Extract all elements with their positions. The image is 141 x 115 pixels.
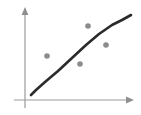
data-point bbox=[44, 53, 50, 59]
data-point bbox=[77, 61, 83, 67]
data-point bbox=[85, 23, 91, 29]
data-points-group bbox=[44, 23, 109, 67]
x-axis-arrow-icon bbox=[126, 97, 134, 104]
chart-canvas bbox=[0, 0, 141, 115]
scatter-plot-figure bbox=[0, 0, 141, 115]
y-axis-arrow-icon bbox=[22, 7, 29, 15]
data-point bbox=[103, 42, 109, 48]
